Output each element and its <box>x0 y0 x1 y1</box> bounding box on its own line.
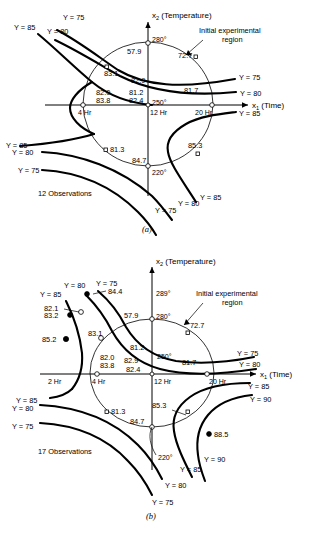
contour-a-Y80-top <box>55 40 236 94</box>
marker-852-b <box>63 336 68 341</box>
figure-b-svg: x1 (Time) x2 (Temperature) Initial exper… <box>0 255 314 533</box>
xtick-4hr-b: 4 Hr <box>92 378 106 385</box>
value-81-7-b: 81.7 <box>182 358 196 367</box>
ytick-280-a: 280° <box>152 36 167 43</box>
value-83-8-a: 83.8 <box>96 96 110 105</box>
contour-a-Y85-lowerleft <box>20 134 94 146</box>
contour-label-a-left-5: Y = 75 <box>18 166 39 175</box>
figure-a-svg: x1 (Time) x2 (Temperature) Initial exper… <box>0 0 314 266</box>
marker-853-a <box>196 152 199 155</box>
contour-label-b-right-1: Y = 80 <box>239 360 260 369</box>
x-axis-arrow-b <box>250 371 256 376</box>
contour-a-Y85-lobe <box>70 82 94 134</box>
region-label-line1-b: Initial experimental <box>196 289 258 298</box>
contour-a-Y75-top <box>57 30 235 85</box>
value-72-7-b: 72.7 <box>190 321 204 330</box>
contour-label-a-left-1: Y = 80 <box>47 27 68 36</box>
region-label-line2-a: region <box>222 35 243 44</box>
marker-250deg-a <box>146 103 150 107</box>
observations-note-b: 17 Observations <box>38 447 92 456</box>
figure-caption-a: (a) <box>142 224 152 234</box>
x-axis-label-b: x1 (Time) <box>260 370 293 380</box>
value-82-4-a: 82.4 <box>129 96 143 105</box>
contour-label-b-right-2: Y = 85 <box>248 382 269 391</box>
value-57-9-a: 57.9 <box>127 47 141 56</box>
xtick-12hr-b: 12 Hr <box>154 378 172 385</box>
figure-b-container: x1 (Time) x2 (Temperature) Initial exper… <box>0 255 314 533</box>
observations-note-a: 12 Observations <box>38 189 92 198</box>
value-85-3-a: 85.3 <box>188 141 202 150</box>
value-84-7-b: 84.7 <box>130 417 144 426</box>
value-81-3-b: 81.3 <box>111 407 125 416</box>
value-82-4-b: 82.4 <box>126 365 140 374</box>
value-72-7-a: 72.7 <box>178 51 192 60</box>
value-81-2-b: 81.2 <box>130 343 144 352</box>
marker-20hr-a <box>210 103 215 108</box>
x-axis-arrow-a <box>242 102 248 107</box>
xtick-20hr-b: 20 Hr <box>209 378 227 385</box>
contour-b-Y85-leftend <box>50 389 72 398</box>
contour-label-b-bottom-2: Y = 80 <box>165 481 186 490</box>
contour-label-a-right-2: Y = 85 <box>239 109 260 118</box>
leader-220-b <box>150 427 156 455</box>
ytick-220-b: 220° <box>158 454 173 461</box>
marker-832-b <box>68 313 73 318</box>
marker-813-a <box>104 148 107 151</box>
y-axis-arrow-b <box>149 267 154 273</box>
marker-280deg-a <box>146 41 151 46</box>
contour-label-b-bottom-0: Y = 90 <box>204 455 225 464</box>
contour-label-a-bottom-0: Y = 75 <box>155 206 176 215</box>
marker-885-b <box>207 432 212 437</box>
contour-label-a-left-2: Y = 75 <box>63 13 84 22</box>
y-axis-arrow-a <box>145 22 150 28</box>
marker-813-b <box>105 410 108 413</box>
value-85-3-b: 85.3 <box>152 401 166 410</box>
figure-a-container: x1 (Time) x2 (Temperature) Initial exper… <box>0 0 314 266</box>
ytick-250-a: 250° <box>152 99 167 106</box>
value-82-9-b: 82.9 <box>124 356 138 365</box>
xtick-12hr-a: 12 Hr <box>150 109 168 116</box>
contour-label-a-bottom-2: Y = 85 <box>200 193 221 202</box>
ytick-220-a: 220° <box>152 169 167 176</box>
contour-label-b-left-4: Y = 80 <box>12 404 33 413</box>
contour-label-a-left-0: Y = 85 <box>14 23 35 32</box>
value-83-1-b: 83.1 <box>88 329 102 338</box>
contour-label-a-right-0: Y = 75 <box>239 73 260 82</box>
contour-label-b-right-3: Y = 90 <box>250 395 271 404</box>
value-85-2-b: 85.2 <box>42 335 56 344</box>
value-81-3-a: 81.3 <box>110 145 124 154</box>
marker-20hr-b <box>205 372 210 377</box>
region-label-line1-a: Initial experimental <box>199 26 261 35</box>
marker-4hr-b <box>95 372 100 377</box>
value-82-9-a: 82.9 <box>131 76 145 85</box>
contour-label-b-left-0: Y = 85 <box>40 290 61 299</box>
value-88-5-b: 88.5 <box>214 430 228 439</box>
value-83-8-b: 83.8 <box>100 361 114 370</box>
contour-label-a-right-1: Y = 80 <box>240 89 261 98</box>
figure-caption-b: (b) <box>146 511 156 521</box>
y-axis-label-b: x2 (Temperature) <box>156 257 216 267</box>
value-81-7-a: 81.7 <box>184 86 198 95</box>
leader-853-b <box>172 410 186 415</box>
ytick-250-b: 250° <box>157 353 172 360</box>
contour-a-Y75-lower <box>42 170 156 235</box>
value-84-4-b: 84.4 <box>108 287 122 296</box>
contour-label-b-bottom-1: Y = 85 <box>180 465 201 474</box>
ytick-280-b: 280° <box>156 313 171 320</box>
marker-250deg-b <box>150 372 154 376</box>
contour-a-Y80-lower <box>42 152 172 220</box>
contour-b-Y75-lower <box>40 423 152 495</box>
contour-label-a-left-4: Y = 80 <box>12 148 33 157</box>
region-label-line2-b: region <box>222 298 243 307</box>
contour-label-b-left-2: Y = 75 <box>96 279 117 288</box>
marker-4hr-a <box>81 103 86 108</box>
marker-727-b <box>186 331 189 334</box>
xtick-4hr-a: 4 Hr <box>78 109 92 116</box>
value-83-2-b: 83.2 <box>44 311 58 320</box>
contour-label-b-right-0: Y = 75 <box>237 349 258 358</box>
ytick-289-b: 289° <box>156 290 171 297</box>
axes-group-a <box>45 22 248 196</box>
value-83-1-a: 83.1 <box>104 69 118 78</box>
y-axis-label-a: x2 (Temperature) <box>152 11 212 21</box>
xtick-2hr-b: 2 Hr <box>48 378 62 385</box>
